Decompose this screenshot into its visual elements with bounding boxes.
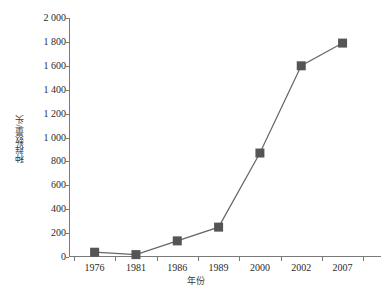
x-tick-label: 1981 (126, 262, 146, 274)
y-tick-mark (65, 209, 69, 210)
x-tick-mark (115, 257, 116, 261)
x-tick-mark (74, 257, 75, 261)
y-tick-mark (65, 18, 69, 19)
data-point-marker (255, 149, 264, 158)
x-tick-label: 1989 (209, 262, 229, 274)
y-tick-mark (65, 66, 69, 67)
y-tick-mark (65, 257, 69, 258)
y-tick-mark (65, 90, 69, 91)
x-tick-label: 1986 (167, 262, 187, 274)
x-axis-title: 年份 (0, 276, 392, 287)
data-point-marker (90, 248, 99, 257)
y-tick-mark (65, 42, 69, 43)
y-tick-label: 1 600 (44, 61, 67, 71)
x-tick-mark (198, 257, 199, 261)
y-tick-label: 2 000 (44, 13, 67, 23)
x-tick-mark (281, 257, 282, 261)
data-point-marker (131, 250, 140, 259)
y-tick-label: 400 (51, 204, 66, 214)
y-tick-label: 1 000 (44, 133, 67, 143)
x-tick-mark (322, 257, 323, 261)
x-tick-mark (363, 257, 364, 261)
line-chart: 种群数量/头 02004006008001 0001 2001 4001 600… (0, 0, 392, 304)
y-tick-mark (65, 185, 69, 186)
x-tick-label: 1976 (85, 262, 105, 274)
x-tick-mark (157, 257, 158, 261)
data-point-marker (297, 61, 306, 70)
x-tick-label: 2002 (291, 262, 311, 274)
x-tick-mark (239, 257, 240, 261)
y-tick-label: 600 (51, 180, 66, 190)
y-tick-label: 1 400 (44, 85, 67, 95)
data-point-marker (214, 223, 223, 232)
data-point-marker (338, 39, 347, 48)
y-tick-mark (65, 114, 69, 115)
data-point-marker (173, 236, 182, 245)
y-tick-mark (65, 233, 69, 234)
y-tick-label: 1 800 (44, 37, 67, 47)
y-tick-label: 200 (51, 228, 66, 238)
data-series (69, 18, 381, 257)
x-tick-label: 2000 (250, 262, 270, 274)
plot-area (69, 18, 381, 257)
y-axis-tick-labels: 02004006008001 0001 2001 4001 6001 8002 … (26, 0, 66, 304)
y-tick-mark (65, 161, 69, 162)
y-tick-label: 1 200 (44, 109, 67, 119)
x-tick-label: 2007 (333, 262, 353, 274)
y-tick-label: 800 (51, 156, 66, 166)
y-tick-mark (65, 138, 69, 139)
